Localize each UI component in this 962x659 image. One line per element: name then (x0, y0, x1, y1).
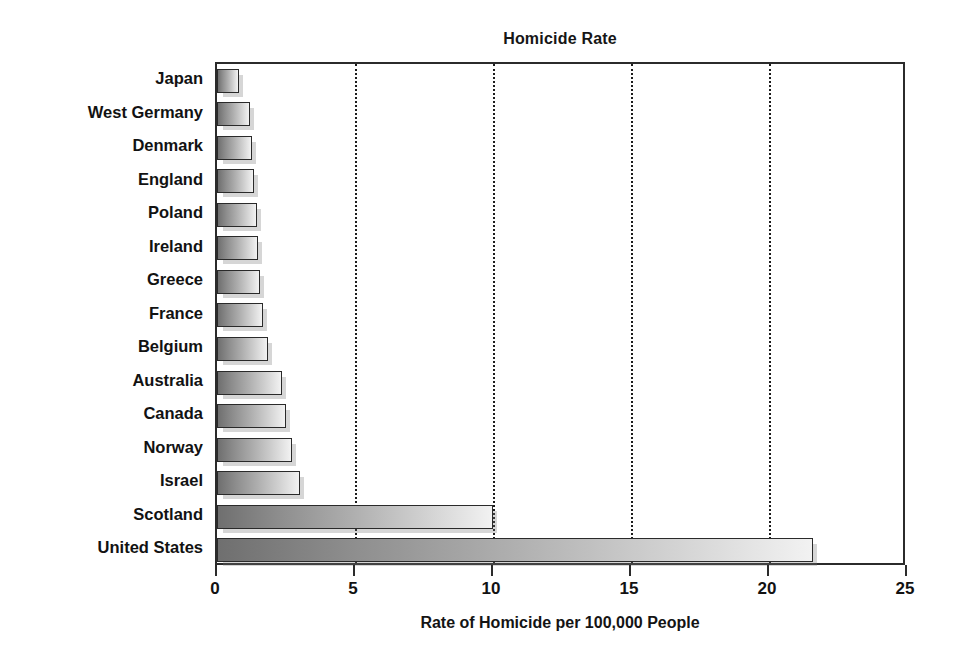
bar-canada (217, 404, 286, 428)
bar-ireland (217, 236, 258, 260)
bar-row (217, 399, 907, 433)
category-label-norway: Norway (0, 431, 203, 465)
bar-row (217, 299, 907, 333)
bar-row (217, 265, 907, 299)
x-tick-mark-15 (629, 565, 631, 576)
bars-layer (217, 64, 903, 563)
category-label-belgium: Belgium (0, 330, 203, 364)
bar-row (217, 366, 907, 400)
bar-row (217, 433, 907, 467)
x-tick-label-0: 0 (210, 579, 219, 599)
category-label-england: England (0, 163, 203, 197)
category-label-poland: Poland (0, 196, 203, 230)
x-tick-label-20: 20 (758, 579, 777, 599)
category-label-israel: Israel (0, 464, 203, 498)
bar-row (217, 500, 907, 534)
bar-belgium (217, 337, 268, 361)
bar-row (217, 533, 907, 567)
x-tick-mark-20 (767, 565, 769, 576)
plot-area (215, 62, 905, 565)
category-label-canada: Canada (0, 397, 203, 431)
bar-scotland (217, 505, 493, 529)
bar-japan (217, 69, 239, 93)
bar-israel (217, 471, 300, 495)
bar-row (217, 131, 907, 165)
category-label-west-germany: West Germany (0, 96, 203, 130)
bar-row (217, 98, 907, 132)
bar-france (217, 303, 263, 327)
x-tick-label-25: 25 (896, 579, 915, 599)
chart-title: Homicide Rate (215, 30, 905, 48)
value-axis-ticks: 0510152025 (215, 567, 905, 601)
x-axis-title: Rate of Homicide per 100,000 People (215, 614, 905, 632)
bar-row (217, 64, 907, 98)
x-tick-label-5: 5 (348, 579, 357, 599)
bar-row (217, 332, 907, 366)
bar-greece (217, 270, 260, 294)
bar-united-states (217, 538, 813, 562)
category-label-ireland: Ireland (0, 230, 203, 264)
category-label-greece: Greece (0, 263, 203, 297)
category-axis-labels: JapanWest GermanyDenmarkEnglandPolandIre… (0, 62, 203, 565)
bar-row (217, 165, 907, 199)
x-tick-mark-25 (905, 565, 907, 576)
category-label-france: France (0, 297, 203, 331)
x-tick-mark-5 (353, 565, 355, 576)
x-tick-label-10: 10 (482, 579, 501, 599)
bar-row (217, 198, 907, 232)
bar-england (217, 169, 254, 193)
category-label-japan: Japan (0, 62, 203, 96)
homicide-rate-bar-chart: Homicide Rate JapanWest GermanyDenmarkEn… (0, 0, 962, 659)
bar-west-germany (217, 102, 250, 126)
category-label-australia: Australia (0, 364, 203, 398)
bar-row (217, 466, 907, 500)
category-label-denmark: Denmark (0, 129, 203, 163)
bar-denmark (217, 136, 252, 160)
x-tick-mark-0 (215, 565, 217, 576)
x-tick-mark-10 (491, 565, 493, 576)
bar-row (217, 232, 907, 266)
bar-norway (217, 438, 292, 462)
bar-poland (217, 203, 257, 227)
bar-australia (217, 371, 282, 395)
category-label-united-states: United States (0, 531, 203, 565)
x-tick-label-15: 15 (620, 579, 639, 599)
category-label-scotland: Scotland (0, 498, 203, 532)
